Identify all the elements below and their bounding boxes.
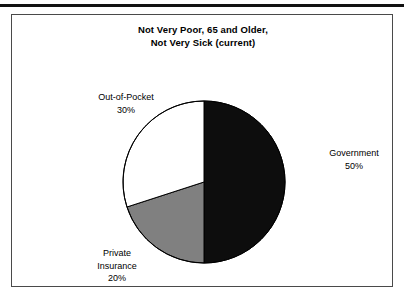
pie-slice-government[interactable] xyxy=(204,101,285,263)
pie-chart: Government 50% Out-of-Pocket 30% Private… xyxy=(12,15,394,288)
pie-label-government: Government 50% xyxy=(312,147,396,172)
chart-frame: Not Very Poor, 65 and Older, Not Very Si… xyxy=(11,14,393,287)
top-horizontal-rule xyxy=(0,4,404,7)
figure-root: Not Very Poor, 65 and Older, Not Very Si… xyxy=(0,0,404,297)
pie-label-private-insurance: Private Insurance 20% xyxy=(74,247,160,285)
pie-label-out-of-pocket: Out-of-Pocket 30% xyxy=(74,91,178,116)
